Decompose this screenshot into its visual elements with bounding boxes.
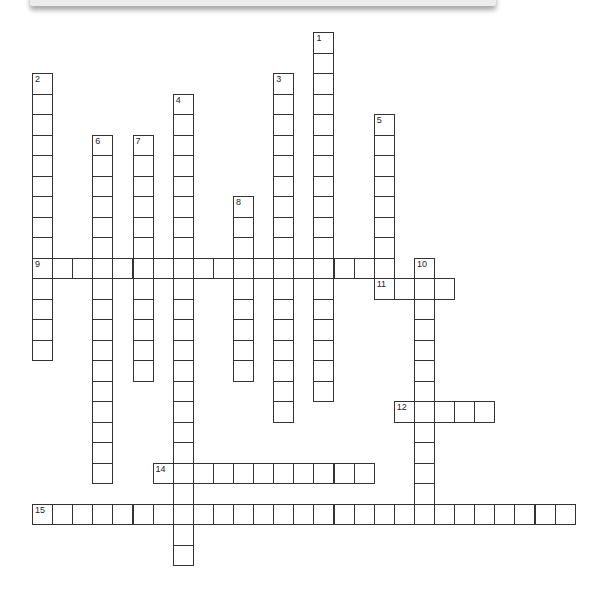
crossword-cell[interactable] xyxy=(313,340,334,362)
crossword-cell[interactable] xyxy=(32,196,53,218)
crossword-cell[interactable] xyxy=(173,278,194,300)
crossword-cell[interactable] xyxy=(273,114,294,136)
crossword-cell[interactable] xyxy=(313,463,334,485)
crossword-cell[interactable] xyxy=(173,483,194,505)
crossword-cell[interactable] xyxy=(273,196,294,218)
crossword-cell[interactable] xyxy=(52,504,73,526)
crossword-cell[interactable] xyxy=(173,401,194,423)
crossword-cell[interactable]: 15 xyxy=(32,504,53,526)
crossword-cell[interactable] xyxy=(414,381,435,403)
crossword-cell[interactable] xyxy=(112,258,133,280)
crossword-cell[interactable] xyxy=(32,299,53,321)
crossword-cell[interactable] xyxy=(273,381,294,403)
crossword-cell[interactable] xyxy=(313,360,334,382)
crossword-cell[interactable] xyxy=(173,237,194,259)
crossword-cell[interactable] xyxy=(193,463,214,485)
crossword-cell[interactable] xyxy=(273,299,294,321)
crossword-cell[interactable] xyxy=(474,401,495,423)
crossword-cell[interactable]: 8 xyxy=(233,196,254,218)
crossword-cell[interactable] xyxy=(233,319,254,341)
crossword-cell[interactable] xyxy=(334,463,355,485)
crossword-cell[interactable] xyxy=(273,155,294,177)
crossword-cell[interactable]: 7 xyxy=(133,135,154,157)
crossword-cell[interactable] xyxy=(133,196,154,218)
crossword-cell[interactable] xyxy=(293,463,314,485)
crossword-cell[interactable] xyxy=(313,237,334,259)
crossword-cell[interactable] xyxy=(313,196,334,218)
crossword-cell[interactable] xyxy=(273,176,294,198)
crossword-cell[interactable] xyxy=(374,217,395,239)
crossword-cell[interactable] xyxy=(414,401,435,423)
crossword-cell[interactable] xyxy=(173,442,194,464)
crossword-cell[interactable] xyxy=(293,504,314,526)
crossword-cell[interactable] xyxy=(32,114,53,136)
crossword-cell[interactable] xyxy=(354,504,375,526)
crossword-cell[interactable] xyxy=(173,381,194,403)
crossword-cell[interactable]: 3 xyxy=(273,73,294,95)
crossword-cell[interactable] xyxy=(253,504,274,526)
crossword-cell[interactable] xyxy=(414,422,435,444)
crossword-cell[interactable] xyxy=(313,155,334,177)
crossword-cell[interactable] xyxy=(414,504,435,526)
crossword-cell[interactable] xyxy=(173,360,194,382)
crossword-cell[interactable] xyxy=(173,217,194,239)
crossword-cell[interactable] xyxy=(173,176,194,198)
crossword-cell[interactable] xyxy=(313,73,334,95)
crossword-cell[interactable] xyxy=(313,94,334,116)
crossword-cell[interactable] xyxy=(273,504,294,526)
crossword-cell[interactable] xyxy=(313,278,334,300)
crossword-cell[interactable] xyxy=(72,504,93,526)
crossword-cell[interactable] xyxy=(92,401,113,423)
crossword-cell[interactable] xyxy=(173,504,194,526)
crossword-cell[interactable] xyxy=(253,463,274,485)
crossword-cell[interactable] xyxy=(273,217,294,239)
crossword-cell[interactable] xyxy=(454,504,475,526)
crossword-cell[interactable] xyxy=(313,114,334,136)
crossword-cell[interactable] xyxy=(213,258,234,280)
crossword-cell[interactable] xyxy=(273,319,294,341)
crossword-cell[interactable] xyxy=(313,135,334,157)
crossword-cell[interactable] xyxy=(32,155,53,177)
crossword-cell[interactable]: 5 xyxy=(374,114,395,136)
crossword-cell[interactable] xyxy=(213,504,234,526)
crossword-cell[interactable] xyxy=(92,155,113,177)
crossword-cell[interactable] xyxy=(233,360,254,382)
crossword-cell[interactable] xyxy=(213,463,234,485)
crossword-cell[interactable] xyxy=(173,545,194,567)
crossword-cell[interactable] xyxy=(92,504,113,526)
crossword-cell[interactable] xyxy=(233,463,254,485)
crossword-cell[interactable] xyxy=(394,504,415,526)
crossword-cell[interactable] xyxy=(173,463,194,485)
crossword-cell[interactable]: 6 xyxy=(92,135,113,157)
crossword-cell[interactable] xyxy=(313,53,334,75)
crossword-cell[interactable] xyxy=(233,504,254,526)
crossword-cell[interactable]: 10 xyxy=(414,258,435,280)
crossword-cell[interactable] xyxy=(273,278,294,300)
crossword-cell[interactable] xyxy=(193,258,214,280)
crossword-cell[interactable] xyxy=(313,319,334,341)
crossword-cell[interactable] xyxy=(32,340,53,362)
crossword-cell[interactable] xyxy=(273,340,294,362)
crossword-cell[interactable] xyxy=(233,340,254,362)
crossword-cell[interactable] xyxy=(273,135,294,157)
crossword-cell[interactable] xyxy=(133,360,154,382)
crossword-cell[interactable] xyxy=(434,278,455,300)
crossword-cell[interactable] xyxy=(32,176,53,198)
crossword-cell[interactable] xyxy=(273,94,294,116)
crossword-cell[interactable] xyxy=(32,319,53,341)
crossword-cell[interactable] xyxy=(233,237,254,259)
crossword-cell[interactable] xyxy=(253,258,274,280)
crossword-cell[interactable] xyxy=(374,504,395,526)
crossword-cell[interactable] xyxy=(153,258,174,280)
crossword-cell[interactable] xyxy=(313,504,334,526)
crossword-cell[interactable] xyxy=(173,340,194,362)
crossword-cell[interactable] xyxy=(273,463,294,485)
crossword-cell[interactable]: 1 xyxy=(313,32,334,54)
crossword-cell[interactable] xyxy=(535,504,556,526)
crossword-cell[interactable] xyxy=(92,360,113,382)
crossword-cell[interactable] xyxy=(173,114,194,136)
crossword-cell[interactable] xyxy=(555,504,576,526)
crossword-cell[interactable] xyxy=(32,217,53,239)
crossword-cell[interactable] xyxy=(133,176,154,198)
crossword-cell[interactable] xyxy=(32,278,53,300)
